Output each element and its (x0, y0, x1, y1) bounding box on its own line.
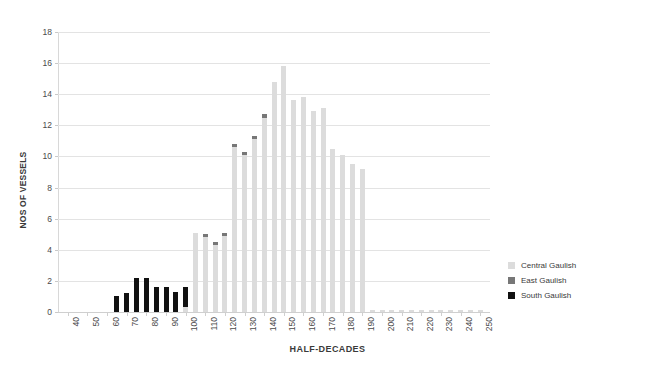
x-axis-tick-mark (421, 312, 422, 316)
legend-item: East Gaulish (508, 273, 576, 288)
x-axis-tick-mark (205, 312, 206, 316)
x-axis-tick-label: 90 (170, 317, 180, 326)
x-axis-tick-mark (186, 312, 187, 316)
bar-segment (222, 236, 227, 312)
y-axis-tick-label: 6 (47, 214, 52, 224)
y-axis-title: NOS OF VESSELS (14, 100, 32, 280)
x-axis-tick-labels: 4050607080901001101201301401501601701801… (58, 317, 490, 347)
legend-swatch (508, 262, 515, 269)
x-axis-tick-mark (107, 312, 108, 316)
x-axis-tick-mark (303, 312, 304, 316)
y-axis-tick-label: 2 (47, 276, 52, 286)
bar-segment (164, 287, 169, 312)
x-axis-tick-label: 40 (71, 317, 81, 326)
x-axis-tick-label: 200 (386, 317, 396, 331)
x-axis-tick-label: 80 (150, 317, 160, 326)
legend-label: Central Gaulish (521, 261, 576, 270)
bar-segment (242, 152, 247, 155)
bar-segment (124, 293, 129, 312)
bar-segment (360, 169, 365, 312)
x-axis-title: HALF-DECADES (0, 344, 655, 354)
bar-segment (213, 242, 218, 245)
x-axis-tick-label: 230 (444, 317, 454, 331)
x-axis-tick-mark (382, 312, 383, 316)
x-axis-tick-mark (323, 312, 324, 316)
bar-segment (203, 237, 208, 312)
bar-segment (154, 287, 159, 312)
x-axis-tick-mark (245, 312, 246, 316)
x-axis-tick-mark (480, 312, 481, 316)
x-axis-tick-label: 70 (130, 317, 140, 326)
x-axis-tick-label: 50 (91, 317, 101, 326)
y-axis-tick-label: 8 (47, 183, 52, 193)
legend-swatch (508, 292, 515, 299)
x-axis-tick-mark (441, 312, 442, 316)
x-axis-tick-label: 100 (189, 317, 199, 331)
y-axis-title-text: NOS OF VESSELS (18, 152, 28, 229)
y-axis-tick-label: 0 (47, 307, 52, 317)
legend-swatch (508, 277, 515, 284)
bar-segment (114, 296, 119, 312)
x-axis-tick-label: 120 (228, 317, 238, 331)
bar-segment (321, 108, 326, 312)
x-axis-tick-label: 170 (327, 317, 337, 331)
x-axis-tick-label: 180 (346, 317, 356, 331)
bar-segment (213, 245, 218, 312)
x-axis-tick-mark (127, 312, 128, 316)
x-axis-tick-mark (87, 312, 88, 316)
bar-segment (262, 114, 267, 117)
x-axis-tick-label: 240 (464, 317, 474, 331)
y-axis-tick-label: 14 (43, 89, 52, 99)
legend-label: East Gaulish (521, 276, 566, 285)
bar-segment (232, 147, 237, 312)
bar-segment (291, 100, 296, 312)
bar-segment (203, 234, 208, 237)
x-axis-tick-label: 140 (268, 317, 278, 331)
bar-segment (252, 136, 257, 139)
y-axis-tick-label: 18 (43, 27, 52, 37)
bar-segment (340, 155, 345, 312)
chart-legend: Central GaulishEast GaulishSouth Gaulish (508, 258, 576, 303)
x-axis-tick-mark (402, 312, 403, 316)
bar-segment (193, 233, 198, 312)
x-axis-tick-label: 250 (484, 317, 494, 331)
x-axis-tick-label: 110 (209, 317, 219, 331)
bar-series-layer (58, 32, 490, 312)
bar-segment (350, 164, 355, 312)
x-axis-tick-mark (284, 312, 285, 316)
x-axis-tick-label: 220 (425, 317, 435, 331)
bar-segment (272, 82, 277, 312)
bar-segment (222, 233, 227, 236)
bar-segment (330, 149, 335, 312)
x-axis-tick-mark (343, 312, 344, 316)
x-axis-tick-mark (362, 312, 363, 316)
y-axis-tick-label: 16 (43, 58, 52, 68)
y-axis-tick-label: 4 (47, 245, 52, 255)
x-axis-tick-mark (461, 312, 462, 316)
legend-item: Central Gaulish (508, 258, 576, 273)
bar-segment (281, 66, 286, 312)
bar-segment (232, 144, 237, 147)
y-axis-tick-label: 10 (43, 151, 52, 161)
legend-label: South Gaulish (521, 291, 571, 300)
x-axis-tick-label: 60 (111, 317, 121, 326)
x-axis-tick-mark (68, 312, 69, 316)
x-axis-tick-mark (225, 312, 226, 316)
bar-segment (173, 292, 178, 312)
plot-area: 024681012141618 (58, 32, 490, 312)
y-axis-tick-label: 12 (43, 120, 52, 130)
bar-segment (311, 111, 316, 312)
x-axis-tick-label: 190 (366, 317, 376, 331)
chart-container: NOS OF VESSELS 024681012141618 405060708… (0, 0, 655, 377)
bar-segment (262, 118, 267, 312)
bar-segment (183, 287, 188, 307)
bar-segment (134, 278, 139, 312)
x-axis-tick-mark (146, 312, 147, 316)
x-axis-tick-label: 150 (287, 317, 297, 331)
legend-item: South Gaulish (508, 288, 576, 303)
x-axis-line (58, 312, 490, 313)
x-axis-tick-label: 130 (248, 317, 258, 331)
x-axis-tick-mark (264, 312, 265, 316)
bar-segment (252, 139, 257, 312)
bar-segment (301, 97, 306, 312)
